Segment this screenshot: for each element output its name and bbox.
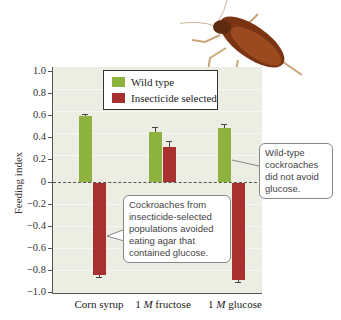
callout-line: insecticide-selected — [129, 211, 225, 223]
callout-line: did not avoid — [265, 171, 327, 183]
callout-line: contained glucose. — [129, 247, 225, 259]
callout-line: glucose. — [265, 183, 327, 195]
callout-line: Wild-type — [265, 147, 327, 159]
callout-line: Cockroaches from — [129, 199, 225, 211]
callout-wild: Wild-type cockroaches did not avoid gluc… — [259, 143, 333, 199]
callout-line: cockroaches — [265, 159, 327, 171]
callout-line: eating agar that — [129, 235, 225, 247]
callout-line: populations avoided — [129, 223, 225, 235]
callout-insecticide: Cockroaches from insecticide-selected po… — [123, 195, 231, 263]
